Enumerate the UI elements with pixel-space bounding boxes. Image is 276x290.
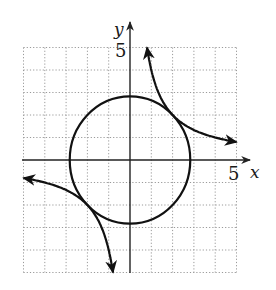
y-tick-label-5: 5 (115, 40, 126, 61)
x-tick-label-5: 5 (228, 163, 239, 184)
graph: y 5 5 x (0, 0, 276, 290)
y-axis-label: y (113, 19, 124, 39)
hyperbola-branch-lower-left (24, 178, 114, 273)
x-axis-label: x (250, 162, 260, 182)
hyperbola-branch-upper-right (147, 48, 237, 143)
